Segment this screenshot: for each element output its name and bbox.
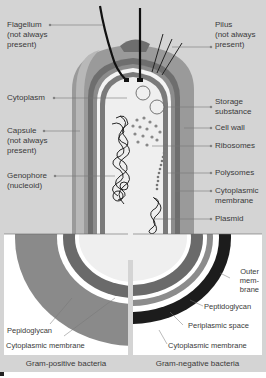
label-storage-substance: Storage substance	[215, 97, 251, 117]
label-pilus: Pilus (not always present)	[215, 20, 255, 50]
storage-granule-icon	[136, 86, 150, 100]
label-cytoplasmic-membrane: Cytoplasmic membrane	[215, 186, 259, 206]
label-ribosomes: Ribosomes	[215, 141, 255, 151]
label-plasmid: Plasmid	[215, 214, 243, 224]
label-flagellum: Flagellum (not always present)	[7, 20, 47, 50]
label-gn-periplasmic-space: Periplasmic space	[188, 321, 249, 330]
label-polysomes: Polysomes	[215, 168, 254, 178]
bacterium-cell	[72, 39, 194, 260]
label-gn-cytoplasmic-membrane: Cytoplasmic membrane	[168, 341, 247, 350]
label-gp-peptidoglycan: Pepidoglycan	[7, 326, 52, 335]
label-genophore: Genophore (nucleoid)	[7, 171, 47, 191]
label-cell-wall: Cell wall	[215, 123, 245, 133]
label-gp-cytoplasmic-membrane: Cytoplasmic membrane	[6, 341, 85, 350]
caption-gram-positive: Gram-positive bacteria	[4, 359, 128, 368]
caption-gram-negative: Gram-negative bacteria	[133, 359, 262, 368]
corner-mark	[0, 372, 4, 376]
label-cytoplasm: Cytoplasm	[7, 93, 45, 103]
label-capsule: Capsule (not always present)	[7, 126, 47, 156]
label-gn-peptidoglycan: Peptidoglycan	[204, 302, 251, 311]
label-gn-outer-membrane: Outer mem- brane	[233, 267, 259, 294]
